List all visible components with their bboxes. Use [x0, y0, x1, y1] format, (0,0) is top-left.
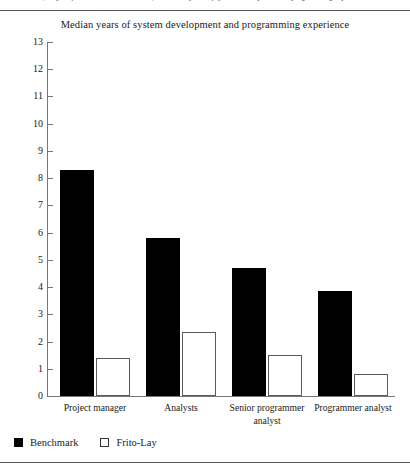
y-tick-label: 4 [21, 280, 43, 293]
y-tick-mark [47, 342, 53, 343]
y-tick: 5 [21, 260, 55, 261]
y-tick-label: 0 [21, 389, 43, 402]
y-tick-label: 1 [21, 362, 43, 375]
legend-item: Frito-Lay [100, 437, 156, 448]
y-tick: 2 [21, 342, 55, 343]
y-tick-mark [47, 96, 53, 97]
horizontal-rule-top [0, 10, 410, 11]
y-tick: 8 [21, 178, 55, 179]
y-tick: 0 [21, 396, 55, 397]
cut-off-caption-text: (Adapted from Jones & Arnett, 1994) — me… [0, 0, 410, 2]
y-tick-label: 10 [21, 117, 43, 130]
x-axis-line [47, 396, 395, 397]
y-tick-label: 12 [21, 62, 43, 75]
y-tick-mark [47, 314, 53, 315]
cut-off-caption: (Adapted from Jones & Arnett, 1994) — me… [0, 0, 410, 3]
y-tick-label: 2 [21, 335, 43, 348]
y-tick-mark [47, 69, 53, 70]
y-tick-mark [47, 205, 53, 206]
y-tick: 1 [21, 369, 55, 370]
x-axis-label: Analysts [134, 402, 228, 415]
legend-label: Frito-Lay [116, 437, 156, 448]
x-axis-label: Project manager [48, 402, 142, 415]
bar-fritolay [268, 355, 302, 396]
y-tick-label: 6 [21, 226, 43, 239]
y-tick-label: 8 [21, 171, 43, 184]
y-tick: 3 [21, 314, 55, 315]
bar-benchmark [60, 170, 94, 396]
y-tick-mark [47, 151, 53, 152]
y-tick-mark [47, 233, 53, 234]
legend-label: Benchmark [30, 437, 78, 448]
bar-benchmark [318, 291, 352, 396]
y-tick: 9 [21, 151, 55, 152]
y-tick: 11 [21, 96, 55, 97]
y-axis-line [47, 42, 48, 397]
x-axis-label: Programmer analyst [306, 402, 400, 415]
y-tick-label: 7 [21, 198, 43, 211]
y-tick-label: 3 [21, 307, 43, 320]
y-tick-mark [47, 396, 53, 397]
y-tick-mark [47, 124, 53, 125]
horizontal-rule-bottom [0, 462, 410, 463]
bar-fritolay [354, 374, 388, 396]
y-tick: 6 [21, 233, 55, 234]
chart-legend: BenchmarkFrito-Lay [14, 437, 179, 448]
y-tick: 4 [21, 287, 55, 288]
y-tick-mark [47, 178, 53, 179]
y-tick: 13 [21, 42, 55, 43]
legend-item: Benchmark [14, 437, 78, 448]
y-tick-label: 11 [21, 89, 43, 102]
bar-benchmark [232, 268, 266, 396]
y-tick: 12 [21, 69, 55, 70]
plot-area: 131211109876543210 Project managerAnalys… [47, 42, 395, 397]
y-tick-mark [47, 260, 53, 261]
y-tick-mark [47, 369, 53, 370]
bar-benchmark [146, 238, 180, 396]
bar-fritolay [182, 332, 216, 396]
bar-fritolay [96, 358, 130, 396]
y-tick: 7 [21, 205, 55, 206]
legend-swatch-filled-square-icon [14, 438, 23, 447]
y-tick-mark [47, 287, 53, 288]
y-tick-mark [47, 42, 53, 43]
y-tick-label: 9 [21, 144, 43, 157]
x-axis-label: Senior programmer analyst [220, 402, 314, 427]
y-tick-label: 13 [21, 35, 43, 48]
y-tick: 10 [21, 124, 55, 125]
y-tick-label: 5 [21, 253, 43, 266]
legend-swatch-open-square-icon [100, 438, 109, 447]
chart-title: Median years of system development and p… [0, 19, 410, 30]
